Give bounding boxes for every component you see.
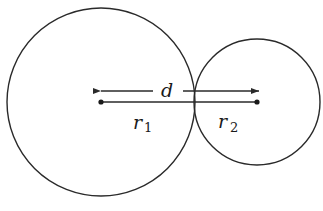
tangent-circles-diagram: d r1 r2: [0, 0, 323, 211]
center-dot-2: [254, 99, 259, 104]
center-dot-1: [98, 99, 103, 104]
label-r1: r1: [133, 111, 152, 135]
label-r2: r2: [218, 110, 238, 135]
label-d: d: [161, 79, 173, 101]
